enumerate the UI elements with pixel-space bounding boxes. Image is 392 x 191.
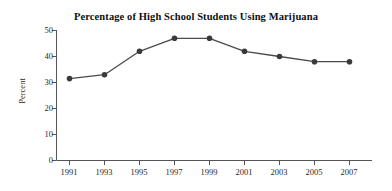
x-tick-label-1991: 1991: [52, 168, 86, 177]
data-point-1999: [207, 36, 213, 42]
chart-figure: Percentage of High School Students Using…: [0, 0, 392, 191]
data-point-2003: [277, 54, 283, 60]
x-tick-label-1995: 1995: [122, 168, 156, 177]
data-point-2001: [242, 49, 248, 55]
x-tick-label-1997: 1997: [157, 168, 191, 177]
plot-area: 50 40 30 20 10 0 Percent 1991 1993 1995 …: [0, 0, 392, 191]
data-series-markers: [67, 36, 353, 82]
data-point-2005: [312, 59, 318, 65]
y-tick-label-30: 30: [33, 78, 53, 87]
x-tick-label-2003: 2003: [262, 168, 296, 177]
y-axis-title: Percent: [17, 61, 27, 121]
y-tick-label-10: 10: [33, 130, 53, 139]
data-point-2007: [347, 59, 353, 65]
y-tick-label-50: 50: [33, 26, 53, 35]
y-tick-label-20: 20: [33, 104, 53, 113]
x-tick-label-2007: 2007: [332, 168, 366, 177]
data-series-line: [70, 38, 350, 78]
data-point-1991: [67, 76, 73, 82]
x-tick-label-2005: 2005: [297, 168, 331, 177]
data-point-1993: [102, 72, 108, 78]
x-tick-marks: [70, 161, 350, 166]
x-tick-label-1993: 1993: [87, 168, 121, 177]
y-tick-marks: [52, 31, 57, 161]
chart-canvas: [0, 0, 392, 191]
y-tick-label-40: 40: [33, 52, 53, 61]
data-point-1997: [172, 36, 178, 42]
x-tick-label-1999: 1999: [192, 168, 226, 177]
x-tick-label-2001: 2001: [227, 168, 261, 177]
data-point-1995: [137, 49, 143, 55]
y-tick-label-0: 0: [33, 156, 53, 165]
